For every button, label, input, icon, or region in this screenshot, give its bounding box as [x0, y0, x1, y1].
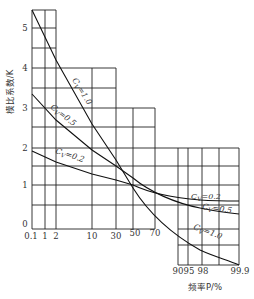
x-tick: 1 [42, 231, 47, 241]
frequency-curve-chart: CV=1.0 CV=0.5 CV=0.2 CV=0.2 CV=0.5 CV=1.… [0, 0, 254, 299]
x-tick: 95 [184, 266, 195, 276]
y-axis-label: 模比系数/K [5, 69, 15, 114]
label-cv-0-2-right: CV=0.2 [191, 192, 221, 202]
x-tick: 0.1 [24, 231, 38, 241]
x-tick: 2 [53, 231, 58, 241]
curve-labels: CV=1.0 CV=0.5 CV=0.2 CV=0.2 CV=0.5 CV=1.… [48, 76, 232, 242]
x-tick: 30 [111, 231, 122, 241]
x-tick: 70 [150, 228, 161, 238]
x-tick: 98 [198, 266, 209, 276]
y-ticks: 5 4 3 2 1 0 [22, 23, 27, 229]
x-tick: 99.9 [231, 266, 250, 276]
label-cv-0-2: CV=0.2 [54, 146, 86, 165]
label-cv-0-5-right: CV=0.5 [202, 202, 233, 216]
label-cv-1-0: CV=1.0 [69, 76, 93, 107]
x-tick: 50 [130, 228, 141, 238]
x-tick: 10 [87, 231, 98, 241]
y-tick: 1 [22, 180, 27, 190]
y-tick: 4 [22, 63, 27, 73]
y-tick: 0 [22, 219, 27, 229]
y-tick: 3 [22, 103, 27, 113]
y-tick: 5 [22, 23, 27, 33]
x-tick: 90 [173, 266, 184, 276]
x-axis-label: 频率P/% [188, 282, 222, 292]
y-tick: 2 [22, 143, 27, 153]
